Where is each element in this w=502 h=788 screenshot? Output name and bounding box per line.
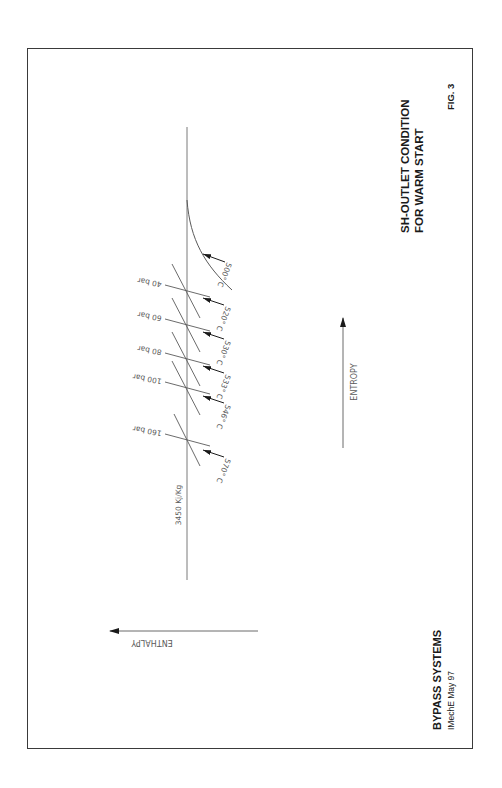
- temp-marker-530: 530° C: [203, 332, 232, 366]
- footer-block: BYPASS SYSTEMS IMechE May 97: [431, 630, 456, 730]
- figure-page: 3450 Kj/Kg 500° C 40 bar 520° C 60 bar 5…: [0, 0, 502, 788]
- temp-label-530: 530° C: [215, 339, 233, 366]
- temp-marker-520: 520° C: [203, 298, 232, 332]
- entropy-label: ENTROPY: [350, 363, 359, 400]
- isobar-100-bar: 100 bar: [131, 361, 210, 415]
- enthalpy-label: ENTHALPY: [131, 638, 173, 647]
- entropy-axis: ENTROPY: [343, 318, 359, 448]
- temp-marker-546: 546° C: [203, 396, 232, 430]
- temp-label-570: 570° C: [215, 457, 233, 484]
- enthalpy-entropy-diagram: 3450 Kj/Kg 500° C 40 bar 520° C 60 bar 5…: [0, 0, 502, 788]
- figure-title-line1: SH-OUTLET CONDITION: [399, 99, 411, 233]
- temp-label-500: 500° C: [216, 261, 234, 288]
- enthalpy-line-label: 3450 Kj/Kg: [174, 484, 183, 525]
- isobar-label-160: 160 bar: [131, 424, 162, 438]
- temp-marker-570: 570° C: [203, 450, 232, 484]
- temp-marker-500: 500° C: [203, 254, 233, 288]
- isobar-label-40: 40 bar: [136, 276, 162, 289]
- isobar-label-80: 80 bar: [136, 344, 162, 357]
- figure-number: FIG. 3: [445, 84, 456, 110]
- title-block: SH-OUTLET CONDITION FOR WARM START FIG. …: [399, 84, 456, 233]
- footer-title: BYPASS SYSTEMS: [431, 630, 443, 730]
- temp-label-546: 546° C: [215, 403, 233, 430]
- footer-subtitle: IMechE May 97: [446, 671, 456, 730]
- isobar-60-bar: 60 bar: [136, 298, 210, 352]
- isobar-160-bar: 160 bar: [131, 414, 210, 466]
- figure-title-line2: FOR WARM START: [413, 128, 425, 233]
- temp-label-533: 533° C: [215, 373, 233, 400]
- temp-marker-533: 533° C: [203, 366, 232, 400]
- temp-label-520: 520° C: [215, 305, 233, 332]
- isobar-label-60: 60 bar: [136, 310, 162, 323]
- enthalpy-axis: ENTHALPY: [110, 631, 258, 647]
- isobar-label-100: 100 bar: [131, 372, 162, 386]
- isobar-40-bar: 40 bar: [136, 264, 210, 318]
